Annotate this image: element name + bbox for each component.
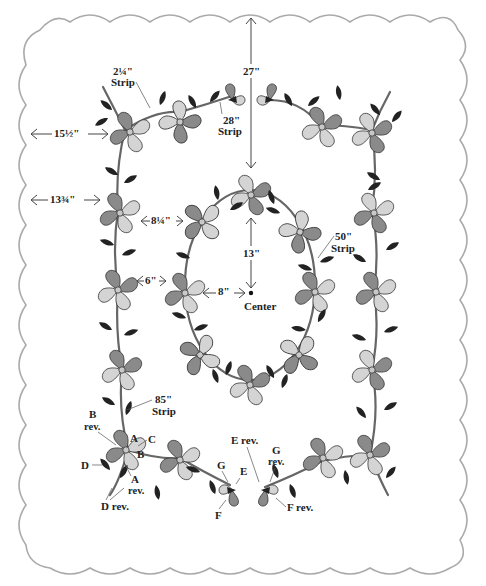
svg-text:85": 85" [155, 393, 172, 405]
svg-text:E: E [240, 465, 247, 477]
svg-text:Strip: Strip [331, 242, 355, 254]
center-dot [249, 291, 253, 295]
svg-text:G: G [217, 459, 226, 471]
svg-text:13": 13" [243, 247, 260, 259]
svg-text:D: D [81, 459, 89, 471]
svg-text:50": 50" [335, 230, 352, 242]
strip-label-85: 85" Strip [127, 393, 176, 417]
svg-text:rev.: rev. [84, 421, 101, 432]
piece-label-f: F [215, 500, 226, 521]
svg-text:15½": 15½" [54, 127, 79, 139]
svg-text:13¾": 13¾" [50, 193, 75, 205]
dimension-27in: 27" [240, 18, 264, 168]
svg-text:rev.: rev. [268, 456, 285, 467]
svg-text:E rev.: E rev. [231, 434, 259, 446]
svg-text:D rev.: D rev. [101, 500, 129, 512]
piece-label-d: D [81, 459, 102, 471]
piece-label-b-rev: B rev. [84, 408, 116, 445]
strip-label-28: 28" Strip [218, 102, 242, 137]
piece-label-f-rev: F rev. [276, 498, 314, 513]
piece-label-d-rev: D rev. [101, 488, 129, 512]
svg-text:6": 6" [145, 274, 157, 286]
dimension-6in: 6" [137, 273, 166, 286]
piece-labels: B rev. A C B D A rev. D rev. G E [81, 408, 314, 521]
svg-text:C: C [148, 433, 156, 445]
svg-text:F: F [215, 509, 222, 521]
svg-text:rev.: rev. [128, 485, 145, 496]
svg-text:B: B [89, 408, 97, 420]
dimension-13-75in: 13¾" [31, 192, 100, 206]
center-label: Center [244, 300, 276, 312]
svg-text:8": 8" [218, 285, 230, 297]
dimension-13in: 13" [240, 218, 264, 288]
svg-text:A: A [131, 473, 139, 485]
piece-label-a: A [130, 432, 138, 444]
inner-oval-wreath [165, 175, 335, 404]
dimension-8in: 8" [203, 284, 245, 298]
svg-text:Strip: Strip [152, 405, 176, 417]
svg-text:Strip: Strip [218, 125, 242, 137]
svg-text:Strip: Strip [111, 76, 135, 88]
svg-text:F rev.: F rev. [287, 501, 314, 513]
dimension-15-5in: 15½" [31, 126, 108, 140]
svg-text:8¼": 8¼" [151, 214, 171, 226]
strip-label-50: 50" Strip [318, 230, 355, 258]
strip-label-2-25: 2¼" Strip [111, 65, 150, 108]
quilt-diagram: Center 27" 13" 8" 15½" 13¾" [0, 0, 486, 586]
svg-text:27": 27" [243, 65, 260, 77]
piece-label-b: B [137, 448, 145, 460]
dimension-8-25in: 8¼" [141, 213, 183, 227]
piece-label-e: E [236, 465, 247, 484]
svg-text:G: G [272, 444, 281, 456]
